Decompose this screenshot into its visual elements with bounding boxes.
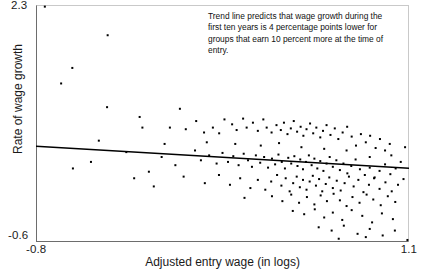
scatter-point <box>366 194 368 196</box>
scatter-point <box>264 189 266 191</box>
scatter-point <box>270 181 272 183</box>
scatter-point <box>298 202 300 204</box>
scatter-point <box>267 167 269 169</box>
scatter-point <box>404 146 406 148</box>
scatter-point <box>379 188 381 190</box>
scatter-point <box>206 141 208 143</box>
scatter-point <box>369 228 371 230</box>
scatter-point <box>312 175 314 177</box>
scatter-point <box>325 183 327 185</box>
scatter-point <box>203 131 205 133</box>
scatter-point <box>359 168 361 170</box>
scatter-point <box>339 199 341 201</box>
scatter-point <box>406 239 408 241</box>
y-axis-tick-max: 2.3 <box>11 0 27 11</box>
scatter-point <box>271 195 273 197</box>
scatter-point <box>335 159 337 161</box>
scatter-point <box>390 154 392 156</box>
scatter-point <box>341 219 343 221</box>
scatter-point <box>238 164 240 166</box>
scatter-point <box>262 118 264 120</box>
scatter-point <box>348 176 350 178</box>
scatter-point <box>384 181 386 183</box>
scatter-point <box>286 133 288 135</box>
scatter-point <box>309 123 311 125</box>
scatter-point <box>322 130 324 132</box>
scatter-point <box>153 185 155 187</box>
scatter-point <box>223 118 225 120</box>
scatter-point <box>285 177 287 179</box>
scatter-point <box>355 145 357 147</box>
scatter-point <box>384 149 386 151</box>
scatter-point <box>139 116 141 118</box>
scatter-point <box>195 120 197 122</box>
scatter-point <box>316 167 318 169</box>
scatter-point <box>242 118 244 120</box>
y-axis-title: Rate of wage growth <box>11 29 25 169</box>
scatter-point <box>318 226 320 228</box>
scatter-point <box>389 173 391 175</box>
scatter-point <box>218 132 220 134</box>
scatter-point <box>259 162 261 164</box>
scatter-point <box>328 176 330 178</box>
scatter-point <box>218 174 220 176</box>
scatter-point <box>380 204 382 206</box>
scatter-point <box>222 152 224 154</box>
scatter-point <box>290 194 292 196</box>
scatter-point <box>371 221 373 223</box>
scatter-point <box>394 230 396 232</box>
scatter-point <box>299 186 301 188</box>
scatter-point <box>292 182 294 184</box>
scatter-point <box>278 142 280 144</box>
scatter-point <box>351 209 353 211</box>
scatter-point <box>106 106 108 108</box>
scatter-point <box>60 82 62 84</box>
scatter-point <box>365 141 367 143</box>
scatter-point <box>200 159 202 161</box>
scatter-point <box>313 203 315 205</box>
scatter-point <box>284 167 286 169</box>
scatter-point <box>236 129 238 131</box>
scatter-point <box>333 193 335 195</box>
scatter-point <box>296 176 298 178</box>
scatter-point <box>387 195 389 197</box>
scatter-point <box>275 124 277 126</box>
scatter-point <box>337 138 339 140</box>
scatter-point <box>239 177 241 179</box>
scatter-point <box>326 200 328 202</box>
scatter-point <box>351 136 353 138</box>
scatter-point <box>362 191 364 193</box>
scatter-point <box>174 164 176 166</box>
scatter-point <box>246 127 248 129</box>
scatter-point <box>216 163 218 165</box>
scatter-point <box>334 127 336 129</box>
scatter-point <box>280 185 282 187</box>
scatter-point <box>355 158 357 160</box>
scatter-point <box>357 233 359 235</box>
scatter-point <box>346 126 348 128</box>
scatter-point <box>319 160 321 162</box>
scatter-point <box>302 168 304 170</box>
scatter-point <box>133 177 135 179</box>
scatter-point <box>276 174 278 176</box>
scatter-point <box>306 196 308 198</box>
scatter-point <box>185 128 187 130</box>
scatter-point <box>302 135 304 137</box>
scatter-point <box>360 133 362 135</box>
scatter-point <box>292 210 294 212</box>
scatter-point <box>44 6 46 8</box>
scatter-point <box>271 131 273 133</box>
scatter-point <box>232 155 234 157</box>
scatter-point <box>391 190 393 192</box>
scatter-point <box>403 178 405 180</box>
scatter-point <box>369 167 371 169</box>
scatter-point <box>332 212 334 214</box>
scatter-point <box>296 165 298 167</box>
scatter-point <box>372 199 374 201</box>
scatter-point <box>161 156 163 158</box>
scatter-point <box>351 196 353 198</box>
scatter-point <box>296 131 298 133</box>
scatter-point <box>381 212 383 214</box>
scatter-point <box>369 156 371 158</box>
scatter-point <box>194 149 196 151</box>
